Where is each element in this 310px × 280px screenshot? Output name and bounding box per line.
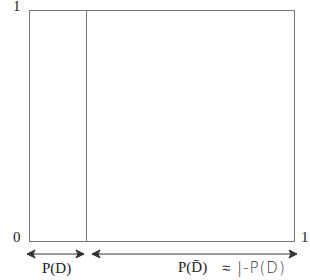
p-d-label: P(D): [42, 260, 71, 277]
handwritten-annotation: ≈ |-P(D): [222, 259, 286, 277]
segment-arrows: [0, 0, 310, 280]
p-not-d-label: P(D̄): [178, 259, 207, 276]
